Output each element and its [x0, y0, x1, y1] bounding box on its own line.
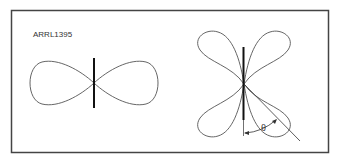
arc-arrowhead-start	[244, 131, 249, 135]
figure-id-label: ARRL1395	[33, 30, 72, 39]
arc-arrowhead-end	[272, 119, 277, 124]
antenna-pattern-diagram	[0, 0, 340, 159]
lobe-direction-line	[244, 84, 300, 141]
theta-label: θ	[261, 123, 266, 133]
